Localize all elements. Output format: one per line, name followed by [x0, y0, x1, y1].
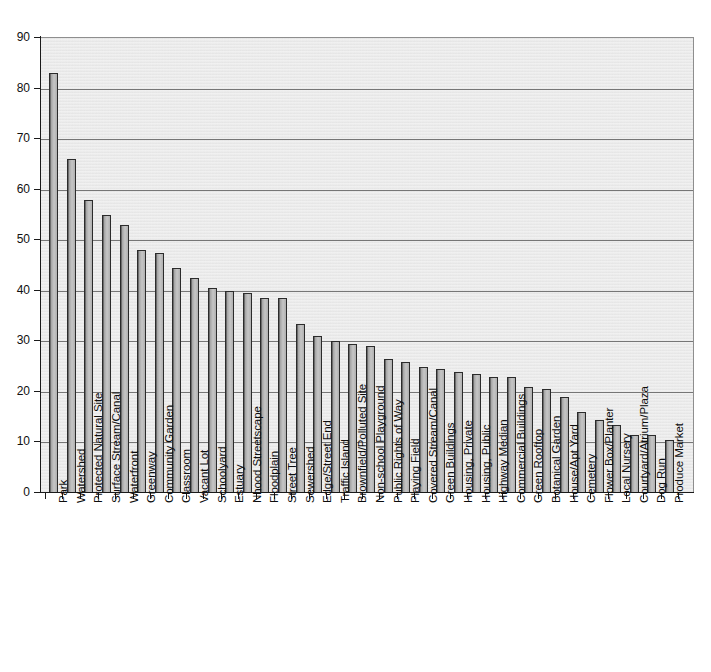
x-axis-label-wrapper: Greenway [146, 451, 157, 503]
x-axis-label-wrapper: Botanical Garden [551, 416, 562, 503]
y-axis-tick-label: 20 [17, 386, 30, 396]
x-axis-tick-label: Housing, Public [481, 425, 492, 503]
x-axis-label-wrapper: Traffic Island [340, 439, 351, 503]
x-axis-tick-label: Highway Median [498, 419, 509, 503]
x-axis-label-wrapper: Public Rights of Way [393, 399, 404, 503]
x-axis-tick-label: Flower Box/Planter [604, 408, 615, 503]
x-axis-tick-label: Estuary [234, 465, 245, 503]
x-axis-label-wrapper: Protected Natural Site [93, 393, 104, 503]
x-axis-tick-label: Waterfront [129, 451, 140, 503]
x-axis-label-wrapper: Classroom [181, 449, 192, 503]
gridline [41, 190, 693, 191]
y-axis-tick-label: 10 [17, 436, 30, 446]
x-axis-tick-label: Courtyard/Atrium/Plaza [639, 386, 650, 503]
x-axis-label-wrapper: Cemetery [586, 454, 597, 503]
x-axis-tick-label: Cemetery [586, 454, 597, 503]
x-axis-tick-label: Edge/Street End [322, 420, 333, 503]
y-axis-tick [34, 239, 41, 240]
y-axis-tick-label: 60 [17, 184, 30, 194]
gridline [41, 89, 693, 90]
x-axis-label-wrapper: Non-school Playground [375, 386, 386, 503]
x-axis-label-wrapper: Green Buildings [445, 423, 456, 503]
x-axis-tick-label: Protected Natural Site [93, 393, 104, 503]
bar [49, 73, 58, 493]
x-axis-tick-label: Street Tree [287, 447, 298, 503]
bar-chart: 9080706050403020100 ParkWatershedProtect… [0, 0, 711, 672]
y-axis-tick [34, 37, 41, 38]
y-axis-tick [34, 138, 41, 139]
x-axis-tick-label: Park [58, 480, 69, 503]
x-axis-label-wrapper: Community Garden [164, 405, 175, 503]
y-axis-tick [34, 88, 41, 89]
x-axis-tick-label: Commercial Buildings [516, 394, 527, 503]
x-axis-label-wrapper: Playing Field [410, 438, 421, 503]
y-axis-tick [34, 290, 41, 291]
x-axis-label-wrapper: Floodplain [269, 451, 280, 503]
x-axis-label-wrapper: Produce Market [674, 423, 685, 503]
x-axis-label-wrapper: Schoolyard [217, 446, 228, 503]
x-axis-label-wrapper: Commercial Buildings [516, 394, 527, 503]
x-axis-label-wrapper: Waterfront [129, 451, 140, 503]
x-axis-tick-label: Classroom [181, 449, 192, 503]
x-axis-label-wrapper: Street Tree [287, 447, 298, 503]
y-axis-tick [34, 492, 41, 493]
x-axis-label-wrapper: Local Nursery [621, 433, 632, 503]
y-axis-tick [34, 189, 41, 190]
x-axis-tick-label: Traffic Island [340, 439, 351, 503]
x-axis-label-wrapper: Brownfield/Polluted Site [357, 384, 368, 503]
x-axis-label-wrapper: Surface Stream/Canal [111, 392, 122, 503]
x-axis-tick-label: Public Rights of Way [393, 399, 404, 503]
x-axis-tick-label: Dog Run [656, 458, 667, 503]
y-axis-tick [34, 391, 41, 392]
x-axis-label-wrapper: Vacant Lot [199, 450, 210, 503]
x-axis-tick-label: Nhood Streetscape [252, 406, 263, 503]
x-axis-tick-label: Green Buildings [445, 423, 456, 503]
y-axis-tick-label: 30 [17, 335, 30, 345]
x-axis-tick-label: Community Garden [164, 405, 175, 503]
x-axis-label-wrapper: Housing, Private [463, 420, 474, 503]
x-axis-label-wrapper: Watershed [76, 449, 87, 503]
x-axis-tick-label: Playing Field [410, 438, 421, 503]
x-axis-tick-label: Floodplain [269, 451, 280, 503]
y-axis-tick [34, 441, 41, 442]
x-axis-tick-label: Green Rooftop [533, 429, 544, 503]
x-axis-tick-label: Produce Market [674, 423, 685, 503]
x-axis-tick [45, 493, 46, 499]
x-axis-label-wrapper: Covered Stream/Canal [428, 388, 439, 503]
x-axis-tick-label: House/Apt Yard [569, 424, 580, 503]
x-axis-label-wrapper: Courtyard/Atrium/Plaza [639, 386, 650, 503]
x-axis-label-wrapper: Nhood Streetscape [252, 406, 263, 503]
x-axis-tick-label: Sewershed [305, 446, 316, 503]
gridline [41, 240, 693, 241]
y-axis-tick-label: 90 [17, 32, 30, 42]
x-axis-label-wrapper: Park [58, 480, 69, 503]
bar [67, 159, 76, 493]
x-axis-tick-label: Non-school Playground [375, 386, 386, 503]
x-axis-label-wrapper: Sewershed [305, 446, 316, 503]
x-axis-tick-label: Surface Stream/Canal [111, 392, 122, 503]
x-axis-tick-label: Vacant Lot [199, 450, 210, 503]
y-axis-tick-label: 0 [23, 487, 30, 497]
x-axis-tick-label: Brownfield/Polluted Site [357, 384, 368, 503]
x-axis-tick-label: Watershed [76, 449, 87, 503]
x-axis-label-wrapper: Highway Median [498, 419, 509, 503]
x-axis-label-wrapper: Flower Box/Planter [604, 408, 615, 503]
x-axis-tick-label: Schoolyard [217, 446, 228, 503]
x-axis-tick-label: Covered Stream/Canal [428, 388, 439, 503]
x-axis-tick-label: Botanical Garden [551, 416, 562, 503]
x-axis-label-wrapper: Estuary [234, 465, 245, 503]
y-axis-line [40, 36, 41, 493]
y-axis-tick-label: 70 [17, 133, 30, 143]
x-axis-label-wrapper: Edge/Street End [322, 420, 333, 503]
y-axis-tick-label: 80 [17, 83, 30, 93]
x-axis-tick-label: Housing, Private [463, 420, 474, 503]
x-axis-label-wrapper: House/Apt Yard [569, 424, 580, 503]
x-axis-tick-label: Local Nursery [621, 433, 632, 503]
y-axis-tick-label: 40 [17, 285, 30, 295]
x-axis-label-wrapper: Dog Run [656, 458, 667, 503]
gridline [41, 139, 693, 140]
y-axis-tick-label: 50 [17, 234, 30, 244]
x-axis-label-wrapper: Green Rooftop [533, 429, 544, 503]
x-axis-tick-label: Greenway [146, 451, 157, 503]
x-axis-label-wrapper: Housing, Public [481, 425, 492, 503]
